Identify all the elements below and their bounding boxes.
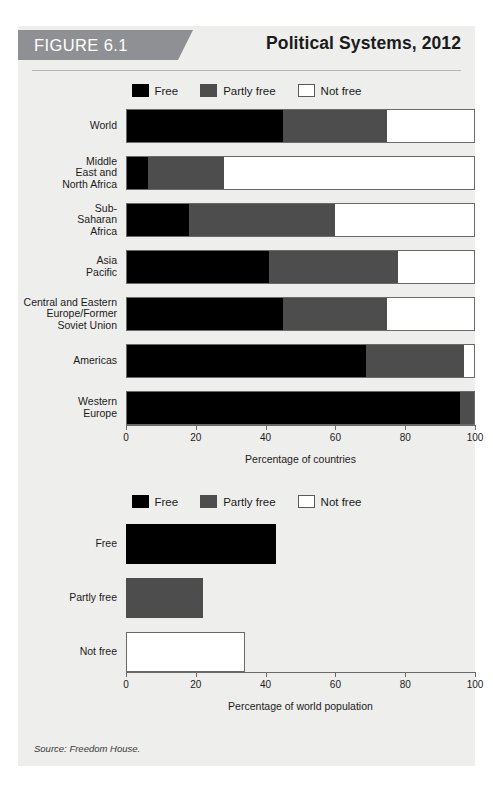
axis-tick-label: 100 xyxy=(467,432,484,443)
bar-segment-not xyxy=(387,110,474,142)
bar-segment-free xyxy=(127,251,269,283)
bar-track xyxy=(126,524,475,564)
stacked-bar xyxy=(126,250,475,284)
bar-segment-free xyxy=(127,345,366,377)
bar-track xyxy=(126,578,475,618)
bar-segment-partly xyxy=(148,157,224,189)
bar-segment-free xyxy=(127,157,148,189)
legend-swatch-not-icon xyxy=(298,84,315,97)
bar-track xyxy=(126,632,475,672)
axis-tick-label: 80 xyxy=(400,432,411,443)
axis-tick-label: 60 xyxy=(330,679,341,690)
axis-tick-label: 0 xyxy=(123,432,129,443)
axis-tick-label: 20 xyxy=(190,432,201,443)
axis-tick xyxy=(475,672,476,677)
legend-label-free: Free xyxy=(155,496,179,508)
bar-rows-population: FreePartly freeNot free xyxy=(18,524,475,672)
legend-label-not: Not free xyxy=(321,85,362,97)
legend-swatch-free-icon xyxy=(132,495,149,508)
axis-line xyxy=(126,672,475,673)
legend-swatch-partly-icon xyxy=(200,84,217,97)
bar-free xyxy=(126,524,276,564)
bar-track xyxy=(126,156,475,190)
bar-row: MiddleEast andNorth Africa xyxy=(18,156,475,190)
axis-tick-label: 20 xyxy=(190,679,201,690)
x-axis-title-population: Percentage of world population xyxy=(126,700,475,712)
bar-segment-partly xyxy=(283,110,387,142)
axis-tick-label: 80 xyxy=(400,679,411,690)
bar-row: Free xyxy=(18,524,475,564)
legend-item-not-countries: Not free xyxy=(298,84,362,97)
bar-segment-partly xyxy=(460,392,474,424)
legend-label-partly: Partly free xyxy=(223,85,275,97)
bar-segment-free xyxy=(127,392,460,424)
bar-partly xyxy=(126,578,203,618)
bar-track xyxy=(126,391,475,425)
legend-label-free: Free xyxy=(155,85,179,97)
bar-row: Partly free xyxy=(18,578,475,618)
figure-header: FIGURE 6.1 Political Systems, 2012 xyxy=(18,26,475,68)
legend-item-free-population: Free xyxy=(132,495,179,508)
axis-tick-label: 40 xyxy=(260,432,271,443)
stacked-bar xyxy=(126,156,475,190)
bar-row: World xyxy=(18,109,475,143)
axis-tick xyxy=(196,672,197,677)
stacked-bar xyxy=(126,391,475,425)
legend-label-partly: Partly free xyxy=(223,496,275,508)
source-note: Source: Freedom House. xyxy=(34,743,140,754)
bar-row-label: WesternEurope xyxy=(18,396,126,419)
bar-track xyxy=(126,250,475,284)
axis-tick xyxy=(126,425,127,430)
legend-swatch-free-icon xyxy=(132,84,149,97)
axis-tick-label: 100 xyxy=(467,679,484,690)
x-axis-title-countries: Percentage of countries xyxy=(126,453,475,465)
x-axis-population: 020406080100 xyxy=(126,672,475,700)
legend-label-not: Not free xyxy=(321,496,362,508)
axis-tick xyxy=(266,425,267,430)
chart-population: FreePartly freeNot free FreePartly freeN… xyxy=(18,495,475,712)
axis-tick-label: 0 xyxy=(123,679,129,690)
figure-number-label: FIGURE 6.1 xyxy=(18,36,128,55)
figure-page: FIGURE 6.1 Political Systems, 2012 FreeP… xyxy=(0,0,493,792)
bar-row-label: Americas xyxy=(18,355,126,367)
stacked-bar xyxy=(126,109,475,143)
stacked-bar xyxy=(126,203,475,237)
bar-segment-free xyxy=(127,204,189,236)
bar-track xyxy=(126,297,475,331)
bar-segment-partly xyxy=(283,298,387,330)
bar-track xyxy=(126,109,475,143)
bar-rows-countries: WorldMiddleEast andNorth AfricaSub-Sahar… xyxy=(18,109,475,425)
legend-item-not-population: Not free xyxy=(298,495,362,508)
legend-countries: FreePartly freeNot free xyxy=(18,84,475,97)
bar-track xyxy=(126,344,475,378)
axis-tick xyxy=(196,425,197,430)
bar-not xyxy=(126,632,245,672)
legend-population: FreePartly freeNot free xyxy=(18,495,475,508)
axis-tick xyxy=(335,672,336,677)
axis-tick-label: 60 xyxy=(330,432,341,443)
bar-row-label: MiddleEast andNorth Africa xyxy=(18,156,126,191)
axis-tick xyxy=(475,425,476,430)
axis-tick xyxy=(335,425,336,430)
bar-track xyxy=(126,203,475,237)
bar-row: Sub-SaharanAfrica xyxy=(18,203,475,237)
bar-segment-free xyxy=(127,110,283,142)
stacked-bar xyxy=(126,297,475,331)
chart-countries: FreePartly freeNot free WorldMiddleEast … xyxy=(18,84,475,465)
stacked-bar xyxy=(126,344,475,378)
legend-item-partly-population: Partly free xyxy=(200,495,275,508)
bar-segment-not xyxy=(464,345,474,377)
bar-row-label: AsiaPacific xyxy=(18,255,126,278)
axis-line xyxy=(126,425,475,426)
legend-item-partly-countries: Partly free xyxy=(200,84,275,97)
axis-tick xyxy=(266,672,267,677)
x-axis-countries: 020406080100 xyxy=(126,425,475,453)
legend-swatch-partly-icon xyxy=(200,495,217,508)
bar-row: Not free xyxy=(18,632,475,672)
bar-row-label: Sub-SaharanAfrica xyxy=(18,203,126,238)
bar-row-label: Free xyxy=(18,538,126,550)
bar-row: WesternEurope xyxy=(18,391,475,425)
bar-segment-not xyxy=(398,251,474,283)
axis-tick-label: 40 xyxy=(260,679,271,690)
bar-row-label: Central and EasternEurope/FormerSoviet U… xyxy=(18,297,126,332)
